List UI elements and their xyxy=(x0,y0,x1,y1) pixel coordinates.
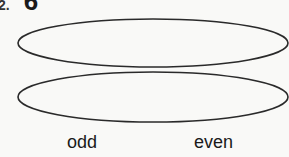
odd-label: odd xyxy=(67,132,97,152)
even-oval[interactable] xyxy=(18,72,288,122)
even-label: even xyxy=(194,132,233,152)
odd-oval[interactable] xyxy=(18,19,288,67)
sorting-ovals xyxy=(0,0,289,157)
